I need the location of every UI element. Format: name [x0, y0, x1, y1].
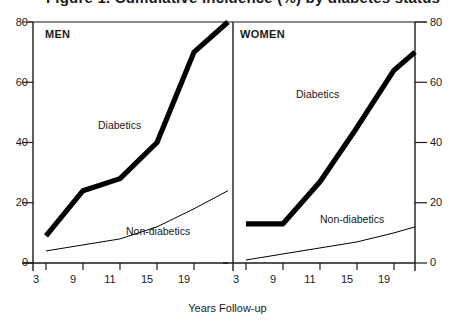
figure-container: Figure 1. Cumulative incidence (%) by di… [0, 0, 455, 325]
y-axis-right-label-80: 80 [430, 16, 455, 28]
y-axis-left-label-60: 60 [2, 76, 28, 88]
series-label-men-diabetics: Diabetics [98, 119, 141, 131]
y-axis-right-label-0: 0 [430, 256, 455, 268]
x-tick-women-3: 15 [337, 273, 357, 285]
series-line-women-non-diabetics [246, 227, 415, 260]
y-axis-left-label-0: 0 [2, 256, 28, 268]
y-axis-left-label-20: 20 [2, 196, 28, 208]
y-axis-right-label-20: 20 [430, 196, 455, 208]
x-tick-men-4: 19 [174, 273, 194, 285]
y-axis-right-label-40: 40 [430, 136, 455, 148]
series-line-women-diabetics [246, 52, 415, 224]
figure-title: Figure 1. Cumulative incidence (%) by di… [46, 0, 440, 6]
x-tick-men-0: 3 [26, 273, 46, 285]
x-tick-women-2: 11 [300, 273, 320, 285]
series-label-women-nondiabetics: Non-diabetics [320, 213, 384, 225]
x-tick-men-3: 15 [137, 273, 157, 285]
x-tick-women-0: 3 [226, 273, 246, 285]
series-label-men-nondiabetics: Non-diabetics [126, 225, 190, 237]
y-axis-left-label-80: 80 [2, 16, 28, 28]
y-axis-left-label-40: 40 [2, 136, 28, 148]
x-tick-women-4: 19 [374, 273, 394, 285]
y-axis-right-label-60: 60 [430, 76, 455, 88]
figure-title-clipped: Figure 1. Cumulative incidence (%) by di… [0, 0, 455, 14]
x-axis-title: Years Follow-up [0, 302, 455, 314]
x-tick-men-1: 9 [63, 273, 83, 285]
panel-title-men: MEN [45, 28, 70, 40]
x-tick-women-1: 9 [263, 273, 283, 285]
x-tick-men-2: 11 [100, 273, 120, 285]
panel-title-women: WOMEN [240, 28, 285, 40]
series-label-women-diabetics: Diabetics [296, 88, 339, 100]
